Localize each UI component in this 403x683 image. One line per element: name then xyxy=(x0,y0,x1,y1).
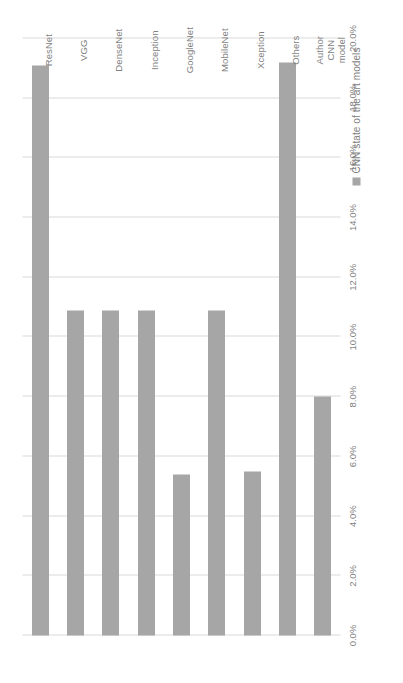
bar[interactable] xyxy=(137,310,154,635)
bar[interactable] xyxy=(208,310,225,635)
category-axis-label: Author CNN model xyxy=(305,32,355,67)
bar-row xyxy=(234,38,269,635)
legend-entry-label: CNN state of the art models xyxy=(350,47,361,173)
bar[interactable] xyxy=(278,62,295,635)
bar-row xyxy=(163,38,198,635)
bar-row xyxy=(22,38,57,635)
value-axis-tick-label: 10.0% xyxy=(346,314,357,360)
bar[interactable] xyxy=(243,471,260,635)
bar[interactable] xyxy=(102,310,119,635)
value-axis-tick-label: 0.0% xyxy=(346,612,357,658)
value-axis-tick-label: 12.0% xyxy=(346,254,357,300)
legend-swatch-icon xyxy=(352,177,360,185)
value-axis-tick-label: 8.0% xyxy=(346,373,357,419)
bars-layer xyxy=(22,38,340,635)
chart-rotation-wrapper: 0.0%2.0%4.0%6.0%8.0%10.0%12.0%14.0%16.0%… xyxy=(0,0,403,683)
value-axis-tick-label: 6.0% xyxy=(346,433,357,479)
bar-row xyxy=(305,38,340,635)
value-axis: 0.0%2.0%4.0%6.0%8.0%10.0%12.0%14.0%16.0%… xyxy=(340,38,386,635)
bar-chart-figure: 0.0%2.0%4.0%6.0%8.0%10.0%12.0%14.0%16.0%… xyxy=(0,0,403,683)
chart-legend: CNN state of the art models xyxy=(350,6,361,226)
bar[interactable] xyxy=(66,310,83,635)
bar[interactable] xyxy=(31,65,48,635)
bar-row xyxy=(57,38,92,635)
bar[interactable] xyxy=(172,474,189,635)
bar-row xyxy=(128,38,163,635)
plot-area xyxy=(22,38,340,635)
value-axis-tick-label: 4.0% xyxy=(346,493,357,539)
bar-row xyxy=(199,38,234,635)
value-axis-tick-label: 2.0% xyxy=(346,552,357,598)
bar-row xyxy=(269,38,304,635)
bar[interactable] xyxy=(314,396,331,635)
bar-row xyxy=(93,38,128,635)
